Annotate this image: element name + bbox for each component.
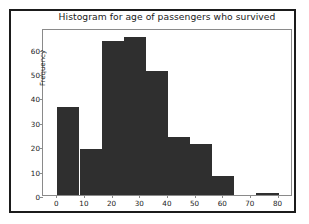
y-tick-label: 0 xyxy=(10,193,40,202)
histogram-bar xyxy=(80,149,102,195)
histogram-bars xyxy=(43,30,291,195)
x-tick-mark xyxy=(139,195,140,198)
y-tick-label: 30 xyxy=(10,119,40,128)
x-tick-label: 60 xyxy=(218,199,227,208)
y-tick-mark xyxy=(40,197,43,198)
y-tick-mark xyxy=(40,148,43,149)
x-tick-mark xyxy=(56,195,57,198)
y-tick-label: 40 xyxy=(10,95,40,104)
x-tick-mark xyxy=(167,195,168,198)
x-tick-mark xyxy=(278,195,279,198)
x-tick-label: 40 xyxy=(162,199,171,208)
x-tick-mark xyxy=(84,195,85,198)
x-tick-label: 70 xyxy=(245,199,254,208)
y-tick-mark xyxy=(40,75,43,76)
figure-canvas: Histogram for age of passengers who surv… xyxy=(0,0,309,224)
x-tick-label: 20 xyxy=(107,199,116,208)
histogram-bar xyxy=(212,176,234,196)
x-tick-label: 10 xyxy=(79,199,88,208)
histogram-bar xyxy=(102,41,124,195)
y-tick-mark xyxy=(40,124,43,125)
y-tick-label: 60 xyxy=(10,46,40,55)
histogram-bar xyxy=(146,71,168,195)
x-tick-label: 50 xyxy=(190,199,199,208)
y-tick-mark xyxy=(40,173,43,174)
histogram-bar xyxy=(124,37,146,195)
histogram-bar xyxy=(168,137,190,196)
y-tick-label: 20 xyxy=(10,144,40,153)
y-tick-mark xyxy=(40,99,43,100)
y-tick-mark xyxy=(40,51,43,52)
y-tick-label: 10 xyxy=(10,168,40,177)
x-tick-mark xyxy=(222,195,223,198)
x-tick-label: 0 xyxy=(54,199,59,208)
chart-title: Histogram for age of passengers who surv… xyxy=(42,11,292,22)
x-tick-label: 30 xyxy=(135,199,144,208)
histogram-bar xyxy=(256,193,278,195)
histogram-bar xyxy=(190,144,212,195)
x-tick-mark xyxy=(195,195,196,198)
x-tick-mark xyxy=(112,195,113,198)
y-tick-label: 50 xyxy=(10,71,40,80)
x-tick-label: 80 xyxy=(273,199,282,208)
x-tick-mark xyxy=(250,195,251,198)
histogram-bar xyxy=(57,107,79,195)
plot-area: Frequency 0102030405060 0102030405060708… xyxy=(42,29,292,196)
